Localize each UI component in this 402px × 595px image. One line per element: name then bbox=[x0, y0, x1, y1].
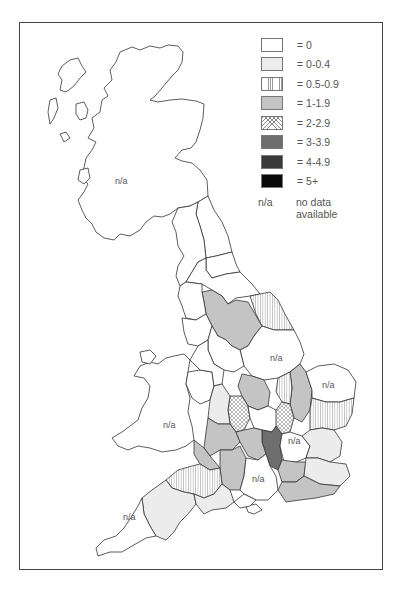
region-anglesey bbox=[140, 350, 156, 364]
legend-swatch-light-grey bbox=[261, 57, 283, 71]
legend-label: = 5+ bbox=[297, 174, 318, 188]
legend-swatch-mid-grey bbox=[261, 96, 283, 110]
legend-item-0: = 0 bbox=[261, 38, 381, 54]
legend-swatch-white bbox=[261, 38, 283, 52]
legend-swatch-very-dark-grey bbox=[261, 155, 283, 169]
legend-swatch-cross-hatch bbox=[261, 116, 283, 130]
legend-na-key: n/a bbox=[258, 196, 273, 208]
legend-label: = 3-3.9 bbox=[297, 135, 330, 149]
na-label-scotland: n/a bbox=[115, 176, 128, 186]
na-label-norfolk: n/a bbox=[322, 380, 335, 390]
legend-na-description: no data available bbox=[296, 196, 366, 220]
na-label-yorkshire: n/a bbox=[270, 353, 283, 363]
legend-swatch-dark-grey bbox=[261, 135, 283, 149]
na-label-hertfordshire: n/a bbox=[288, 436, 301, 446]
legend-item-6: = 4-4.9 bbox=[261, 155, 381, 171]
legend-label: = 1-1.9 bbox=[297, 96, 330, 110]
region-suffolk bbox=[310, 398, 354, 430]
na-label-wales: n/a bbox=[163, 420, 176, 430]
legend-swatch-vertical-hatch bbox=[261, 77, 283, 91]
legend-label: = 0-0.4 bbox=[297, 57, 330, 71]
legend-label: = 4-4.9 bbox=[297, 155, 330, 169]
na-label-cornwall: n/a bbox=[123, 512, 136, 522]
region-wales bbox=[112, 354, 194, 452]
legend-swatch-black bbox=[261, 174, 283, 188]
legend-item-7: = 5+ bbox=[261, 174, 381, 190]
legend-item-4: = 2-2.9 bbox=[261, 116, 381, 132]
na-label-hampshire: n/a bbox=[252, 474, 265, 484]
region-lancashire bbox=[178, 282, 206, 320]
legend-item-5: = 3-3.9 bbox=[261, 135, 381, 151]
legend-label: = 0.5-0.9 bbox=[297, 77, 339, 91]
legend-item-1: = 0-0.4 bbox=[261, 57, 381, 73]
legend-label: = 2-2.9 bbox=[297, 116, 330, 130]
legend-item-2: = 0.5-0.9 bbox=[261, 77, 381, 93]
legend-item-3: = 1-1.9 bbox=[261, 96, 381, 112]
region-hebrides bbox=[58, 58, 86, 92]
legend-label: = 0 bbox=[297, 38, 312, 52]
